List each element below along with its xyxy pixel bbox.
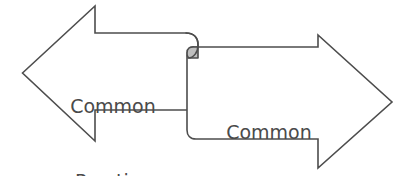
left-arrow-label: Common Practice (52, 44, 174, 176)
left-label-line-2: Practice (52, 169, 174, 176)
left-label-line-1: Common (52, 94, 174, 119)
diagram-canvas: Common Practice Common Sense (0, 0, 411, 176)
right-arrow-label: Common Sense (208, 70, 330, 176)
right-label-line-1: Common (208, 120, 330, 145)
